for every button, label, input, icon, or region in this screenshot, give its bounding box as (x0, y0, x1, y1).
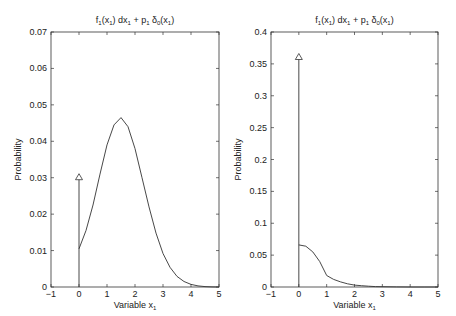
x-tick-label: 2 (132, 289, 137, 299)
x-tick-label: 0 (296, 289, 301, 299)
x-tick-label: 1 (104, 289, 109, 299)
density-curve (299, 245, 438, 287)
x-tick-label: 1 (324, 289, 329, 299)
x-axis-label: Variable x1​ (333, 300, 376, 311)
left-plot: −101234500.010.020.030.040.050.060.07f1​… (13, 15, 222, 311)
triangle-marker-icon (295, 54, 302, 60)
x-tick-label: −1 (266, 289, 276, 299)
y-tick-label: 0.05 (29, 100, 47, 110)
x-tick-label: 4 (188, 289, 193, 299)
y-tick-label: 0.1 (254, 218, 267, 228)
triangle-marker-icon (76, 174, 83, 180)
y-axis-label: Probability (233, 138, 243, 181)
x-tick-label: 0 (76, 289, 81, 299)
y-tick-label: 0.25 (249, 123, 267, 133)
density-curve (79, 118, 219, 287)
right-plot: −101234500.050.10.150.20.250.30.350.4f1​… (233, 15, 441, 311)
axes-box (51, 32, 219, 287)
y-tick-label: 0.4 (254, 27, 267, 37)
y-tick-label: 0.04 (29, 136, 47, 146)
x-tick-label: 3 (380, 289, 385, 299)
y-tick-label: 0.35 (249, 59, 267, 69)
x-axis-label: Variable x1​ (114, 300, 157, 311)
x-tick-label: 2 (352, 289, 357, 299)
figure: −101234500.010.020.030.040.050.060.07f1​… (0, 0, 456, 316)
y-tick-label: 0.2 (254, 155, 267, 165)
y-tick-label: 0.15 (249, 186, 267, 196)
y-tick-label: 0 (42, 282, 47, 292)
chart-title: f1​(x1​) dx1​ + p1​ δ0​(x1​) (96, 15, 174, 26)
x-tick-label: 5 (216, 289, 221, 299)
chart-title: f1​(x1​) dx1​ + p1​ δ0​(x1​) (315, 15, 393, 26)
axes-box (271, 32, 438, 287)
y-axis-label: Probability (13, 138, 23, 181)
x-tick-label: 5 (435, 289, 440, 299)
y-tick-label: 0.07 (29, 27, 47, 37)
x-tick-label: −1 (46, 289, 56, 299)
y-tick-label: 0.03 (29, 173, 47, 183)
x-tick-label: 4 (408, 289, 413, 299)
y-tick-label: 0.3 (254, 91, 267, 101)
y-tick-label: 0.05 (249, 250, 267, 260)
y-tick-label: 0.02 (29, 209, 47, 219)
x-tick-label: 3 (160, 289, 165, 299)
y-tick-label: 0 (262, 282, 267, 292)
y-tick-label: 0.01 (29, 246, 47, 256)
y-tick-label: 0.06 (29, 63, 47, 73)
